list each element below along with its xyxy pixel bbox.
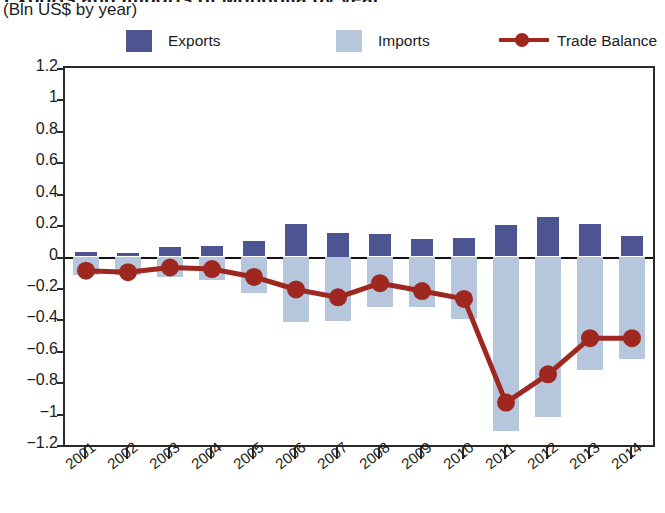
y-axis-tick-label: −0.4	[26, 308, 58, 326]
bar-exports	[327, 233, 350, 257]
bar-exports	[201, 246, 224, 257]
y-axis-tick-label: −1	[40, 403, 58, 421]
y-axis-tick-label: −1.2	[26, 434, 58, 452]
y-axis-tick	[57, 288, 65, 290]
bar-exports	[285, 224, 308, 257]
bar-exports	[411, 239, 434, 256]
y-axis-tick-label: 1.2	[36, 57, 58, 75]
bar-exports	[369, 234, 392, 257]
y-axis-tick-label: 0.2	[36, 214, 58, 232]
y-axis-tick	[57, 257, 65, 259]
bar-imports	[73, 257, 99, 276]
bar-imports	[493, 257, 519, 431]
legend-item-trade-balance[interactable]: Trade Balance	[499, 28, 657, 54]
bar-exports	[537, 217, 560, 256]
bar-imports	[619, 257, 645, 359]
bar-exports	[453, 238, 476, 257]
square-swatch-icon	[126, 30, 152, 52]
bar-imports	[199, 257, 225, 281]
y-axis-tick	[57, 162, 65, 164]
legend-label-imports: Imports	[378, 32, 430, 50]
y-axis-tick-label: 0.8	[36, 120, 58, 138]
y-axis-tick-label: −0.8	[26, 371, 58, 389]
y-axis-tick	[57, 319, 65, 321]
y-axis-tick	[57, 68, 65, 70]
bar-imports	[451, 257, 477, 320]
y-axis-tick	[57, 351, 65, 353]
y-axis-tick	[57, 414, 65, 416]
bar-imports	[115, 257, 141, 276]
legend-item-imports[interactable]: Imports	[336, 28, 430, 54]
bar-imports	[367, 257, 393, 307]
bar-imports	[325, 257, 351, 321]
y-axis-tick	[57, 382, 65, 384]
bar-imports	[241, 257, 267, 293]
bar-exports	[117, 253, 140, 257]
bar-exports	[579, 224, 602, 257]
y-axis-tick-label: 0.4	[36, 183, 58, 201]
legend-label-exports: Exports	[168, 32, 221, 50]
bar-imports	[535, 257, 561, 417]
bar-exports	[243, 241, 266, 257]
bar-imports	[409, 257, 435, 307]
legend-label-trade-balance: Trade Balance	[557, 32, 657, 50]
y-axis-tick	[57, 194, 65, 196]
bar-exports	[159, 247, 182, 256]
bar-exports	[75, 252, 98, 257]
plot-area	[63, 66, 655, 447]
bar-exports	[495, 225, 518, 256]
bar-imports	[577, 257, 603, 370]
y-axis-tick-label: 0.6	[36, 151, 58, 169]
bar-exports	[621, 236, 644, 256]
y-axis-tick-label: −0.2	[26, 277, 58, 295]
y-axis-labels: 1.210.80.60.40.20−0.2−0.4−0.6−0.8−1−1.2	[0, 66, 58, 447]
bar-imports	[283, 257, 309, 323]
x-axis-labels: 2001200220032004200520062007200820092010…	[63, 455, 663, 513]
y-axis-tick	[57, 225, 65, 227]
line-marker-icon	[499, 33, 549, 47]
chart-legend: Exports Imports Trade Balance	[126, 28, 651, 54]
chart-subtitle: (Bln US$ by year)	[3, 0, 137, 20]
y-axis-tick-label: 0	[49, 246, 58, 264]
legend-item-exports[interactable]: Exports	[126, 28, 221, 54]
y-axis-tick-label: 1	[49, 88, 58, 106]
y-axis-tick	[57, 131, 65, 133]
y-axis-tick	[57, 99, 65, 101]
zero-baseline	[65, 257, 653, 259]
bar-imports	[157, 257, 183, 277]
square-swatch-icon	[336, 30, 362, 52]
y-axis-tick-label: −0.6	[26, 340, 58, 358]
